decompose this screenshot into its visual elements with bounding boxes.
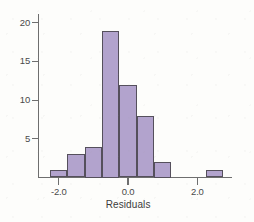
histogram-bar bbox=[119, 85, 136, 178]
y-tick-label-10: 10 bbox=[8, 94, 30, 105]
x-tick-label-neg2: -2.0 bbox=[39, 186, 79, 197]
histogram-bar bbox=[85, 147, 102, 178]
y-tick-15 bbox=[32, 61, 39, 62]
y-tick-label-5: 5 bbox=[8, 133, 30, 144]
histogram-bar bbox=[50, 170, 67, 178]
histogram-bar bbox=[206, 170, 223, 178]
histogram-bar bbox=[154, 162, 171, 178]
x-tick-pos2 bbox=[197, 178, 198, 185]
x-tick-label-zero: 0.0 bbox=[108, 186, 148, 197]
histogram-figure: 20 15 10 5 -2.0 0.0 2.0 Residuals bbox=[0, 0, 254, 222]
y-tick-label-15: 15 bbox=[8, 55, 30, 66]
y-axis-spine bbox=[38, 14, 39, 178]
x-tick-neg2 bbox=[58, 178, 59, 185]
histogram-bar bbox=[67, 154, 84, 177]
y-tick-label-20: 20 bbox=[8, 17, 30, 28]
x-tick-zero bbox=[127, 178, 128, 185]
histogram-bar bbox=[137, 116, 154, 178]
x-tick-label-pos2: 2.0 bbox=[177, 186, 217, 197]
y-tick-5 bbox=[32, 138, 39, 139]
x-axis-title: Residuals bbox=[68, 199, 188, 210]
histogram-bar bbox=[102, 31, 119, 178]
y-tick-20 bbox=[32, 22, 39, 23]
y-tick-10 bbox=[32, 100, 39, 101]
